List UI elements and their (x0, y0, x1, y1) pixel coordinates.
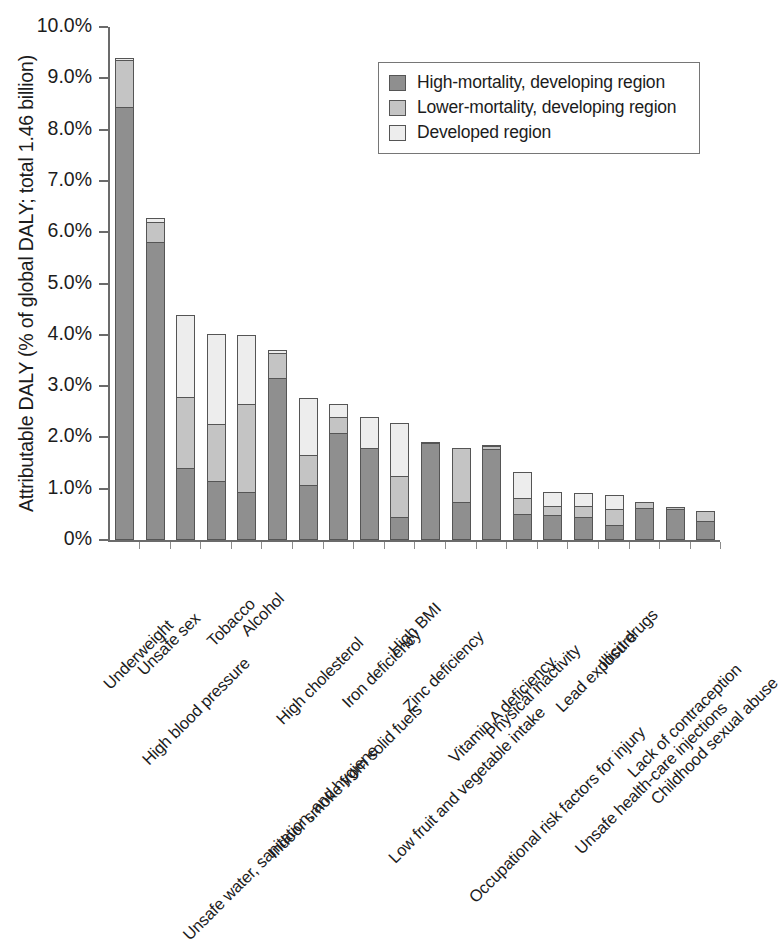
bar-iron-deficiency[interactable] (360, 417, 379, 540)
x-axis-tick-mark (231, 542, 232, 549)
bar-segment (574, 517, 593, 540)
y-axis-tick-label: 8.0% (48, 117, 92, 140)
legend-item-label: Developed region (417, 122, 551, 143)
legend-item[interactable]: Lower-mortality, developing region (389, 95, 689, 120)
x-axis-tick-mark (261, 542, 262, 549)
y-axis-tick-mark (99, 77, 108, 79)
bar-physical-inactivity[interactable] (513, 472, 532, 540)
bar-underweight[interactable] (115, 58, 134, 540)
bar-segment (421, 443, 440, 540)
x-axis-tick-mark (537, 542, 538, 549)
legend-item-label: High-mortality, developing region (417, 72, 665, 93)
x-axis-tick-mark (414, 542, 415, 549)
y-axis-tick-mark (99, 436, 108, 438)
bar-unsafe-water-sanitation-and-hygiene[interactable] (268, 350, 287, 540)
bar-segment (605, 525, 624, 540)
bar-high-bmi[interactable] (390, 423, 409, 540)
bar-segment (176, 397, 195, 468)
y-axis-tick-label: 5.0% (48, 271, 92, 294)
x-axis-category-label: Illicit drugs (595, 605, 662, 672)
bar-segment (207, 481, 226, 540)
bar-segment (574, 506, 593, 517)
bar-unsafe-health-care-injections[interactable] (635, 502, 654, 540)
y-axis-tick-label: 3.0% (48, 373, 92, 396)
bar-segment (605, 509, 624, 524)
bar-vitamin-a-deficiency[interactable] (482, 445, 501, 540)
x-axis-tick-mark (629, 542, 630, 549)
x-axis-tick-mark (170, 542, 171, 549)
bar-segment (268, 353, 287, 379)
y-axis-tick-mark (99, 129, 108, 131)
y-axis-tick-label: 1.0% (48, 476, 92, 499)
x-axis-tick-mark (659, 542, 660, 549)
bar-occupational-risk-factors-for-injury[interactable] (543, 492, 562, 540)
y-axis-tick-mark (99, 334, 108, 336)
y-axis-tick-label: 10.0% (37, 14, 92, 37)
bar-segment (268, 378, 287, 540)
bar-segment (390, 423, 409, 476)
y-axis-tick-label: 9.0% (48, 65, 92, 88)
legend-swatch-icon (389, 125, 406, 141)
bar-indoor-smoke-from-solid-fuels[interactable] (329, 404, 348, 540)
bar-segment (146, 222, 165, 243)
bar-segment (513, 498, 532, 514)
bar-lack-of-contraception[interactable] (666, 507, 685, 540)
bar-segment (299, 485, 318, 540)
bar-high-cholesterol[interactable] (299, 398, 318, 540)
bar-segment (513, 514, 532, 540)
legend-swatch-icon (389, 100, 406, 116)
bar-lead-exposure[interactable] (574, 493, 593, 540)
y-axis-tick-mark (99, 26, 108, 28)
bar-childhood-sexual-abuse[interactable] (696, 511, 715, 540)
x-axis-tick-mark (353, 542, 354, 549)
legend-item-label: Lower-mortality, developing region (417, 97, 676, 118)
bar-segment (329, 433, 348, 540)
bar-segment (696, 511, 715, 520)
bar-segment (390, 476, 409, 517)
bar-segment (696, 521, 715, 540)
bar-segment (237, 492, 256, 540)
y-axis-tick-mark (99, 488, 108, 490)
legend-item[interactable]: High-mortality, developing region (389, 70, 689, 95)
bar-segment (329, 417, 348, 433)
bar-segment (360, 448, 379, 540)
y-axis-tick-label: 4.0% (48, 322, 92, 345)
bar-segment (543, 515, 562, 540)
y-axis-tick-label: 2.0% (48, 424, 92, 447)
bar-segment (513, 472, 532, 498)
x-axis-tick-mark (445, 542, 446, 549)
legend-item[interactable]: Developed region (389, 120, 689, 145)
bar-high-blood-pressure[interactable] (176, 315, 195, 540)
y-axis-tick-mark (99, 283, 108, 285)
bar-segment (543, 492, 562, 506)
x-axis-tick-mark (690, 542, 691, 549)
bar-unsafe-sex[interactable] (146, 218, 165, 540)
bar-zinc-deficiency[interactable] (421, 442, 440, 540)
bar-segment (299, 398, 318, 455)
bar-tobacco[interactable] (207, 334, 226, 540)
bar-segment (237, 335, 256, 404)
x-axis-tick-mark (384, 542, 385, 549)
x-axis-category-label: High BMI (384, 599, 444, 659)
legend-swatch-icon (389, 75, 406, 91)
x-axis-tick-mark (720, 542, 721, 549)
bar-illicit-drugs[interactable] (605, 495, 624, 540)
bar-segment (390, 517, 409, 540)
chart-legend: High-mortality, developing regionLower-m… (378, 62, 700, 154)
bar-segment (452, 502, 471, 540)
bar-segment (482, 449, 501, 540)
bar-low-fruit-and-vegetable-intake[interactable] (452, 448, 471, 540)
y-axis-tick-mark (99, 385, 108, 387)
bar-segment (635, 508, 654, 540)
bar-segment (452, 448, 471, 502)
y-axis-tick-mark (99, 539, 108, 541)
bar-alcohol[interactable] (237, 335, 256, 540)
bar-segment (115, 107, 134, 540)
x-axis-tick-mark (506, 542, 507, 549)
y-axis-tick-label: 7.0% (48, 168, 92, 191)
caption-clip: Burden of disease dues to leading global… (0, 760, 727, 803)
x-axis-tick-mark (323, 542, 324, 549)
y-axis-tick-mark (99, 231, 108, 233)
bar-segment (176, 468, 195, 540)
bar-segment (176, 315, 195, 397)
